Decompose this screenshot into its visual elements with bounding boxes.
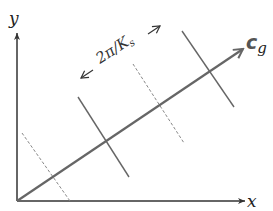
cg-main: c xyxy=(246,31,258,53)
dashed-line-1 xyxy=(22,133,70,201)
wavelength-arrow-left xyxy=(81,70,93,78)
group-velocity-arrow xyxy=(17,49,243,201)
group-velocity-label: cg xyxy=(246,31,267,57)
wavelength-main: 2π/K xyxy=(92,32,133,67)
cg-sub: g xyxy=(257,39,267,57)
solid-line-2 xyxy=(182,31,234,107)
wavelength-arrow-right xyxy=(148,26,160,34)
dashed-line-2 xyxy=(133,64,184,143)
x-axis-label: x xyxy=(247,191,257,211)
y-axis-label: y xyxy=(8,8,19,28)
wavelength-label: 2π/Ks xyxy=(92,30,137,69)
solid-line-1 xyxy=(78,97,129,177)
wave-crest-diagram: y x cg 2π/Ks xyxy=(0,0,273,211)
